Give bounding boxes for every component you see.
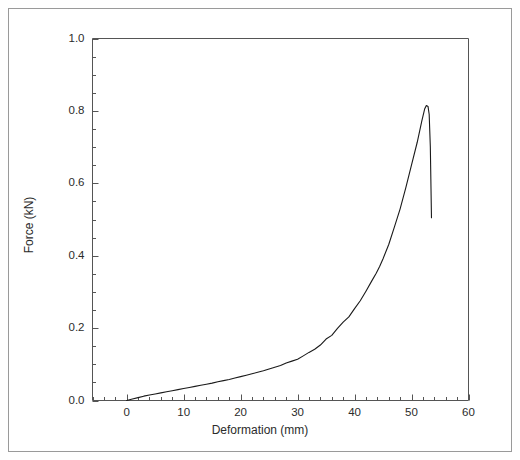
x-axis-minor-ticks bbox=[94, 397, 458, 401]
force-deformation-curve bbox=[127, 105, 432, 400]
x-tick-label: 20 bbox=[224, 406, 258, 418]
x-tick-label: 10 bbox=[167, 406, 201, 418]
x-tick-label: 30 bbox=[281, 406, 315, 418]
x-axis-major-ticks bbox=[128, 395, 470, 401]
x-tick-label: 60 bbox=[452, 406, 486, 418]
chart-plot-area bbox=[0, 0, 520, 460]
x-tick-label: 50 bbox=[395, 406, 429, 418]
y-tick-label: 0.0 bbox=[51, 394, 85, 406]
x-axis-label: Deformation (mm) bbox=[0, 423, 520, 437]
y-tick-label: 0.4 bbox=[51, 249, 85, 261]
x-tick-label: 40 bbox=[338, 406, 372, 418]
y-tick-label: 0.8 bbox=[51, 104, 85, 116]
y-axis-label: Force (kN) bbox=[22, 165, 36, 285]
y-tick-label: 0.6 bbox=[51, 176, 85, 188]
y-axis-minor-ticks bbox=[93, 58, 97, 383]
axes-frame-path bbox=[93, 39, 469, 401]
axes-spines bbox=[93, 39, 469, 401]
y-tick-label: 1.0 bbox=[51, 32, 85, 44]
x-tick-label: 0 bbox=[110, 406, 144, 418]
y-tick-label: 0.2 bbox=[51, 321, 85, 333]
